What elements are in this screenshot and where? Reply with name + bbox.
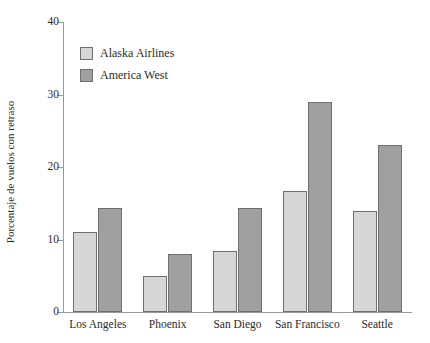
bar[interactable] — [308, 102, 332, 312]
legend-item[interactable]: America West — [80, 66, 174, 84]
legend-label: America West — [100, 69, 168, 81]
bar[interactable] — [283, 191, 307, 312]
y-tick-label: 10 — [48, 234, 60, 246]
bar[interactable] — [213, 251, 237, 312]
bar-chart: Porcentaje de vuelos con retraso 0102030… — [0, 0, 430, 343]
y-tick-label: 30 — [48, 89, 60, 101]
bar[interactable] — [73, 232, 97, 312]
legend-label: Alaska Airlines — [100, 47, 174, 59]
bar[interactable] — [143, 276, 167, 312]
legend-item[interactable]: Alaska Airlines — [80, 44, 174, 62]
x-category-label: Seattle — [361, 318, 392, 330]
bar[interactable] — [168, 254, 192, 312]
bar[interactable] — [378, 145, 402, 312]
bar[interactable] — [238, 208, 262, 312]
x-category-label: San Francisco — [275, 318, 340, 330]
bar[interactable] — [353, 211, 377, 313]
x-axis-line — [63, 312, 412, 313]
y-tick-label: 0 — [53, 306, 59, 318]
y-tick-label: 20 — [48, 161, 60, 173]
x-category-label: Los Angeles — [69, 318, 126, 330]
bar[interactable] — [98, 208, 122, 312]
x-category-label: San Diego — [213, 318, 261, 330]
legend-swatch-icon — [80, 69, 93, 82]
y-tick-label: 40 — [48, 16, 60, 28]
legend-swatch-icon — [80, 47, 93, 60]
legend: Alaska Airlines America West — [80, 44, 174, 88]
x-category-label: Phoenix — [149, 318, 187, 330]
y-axis-title: Porcentaje de vuelos con retraso — [4, 100, 16, 242]
